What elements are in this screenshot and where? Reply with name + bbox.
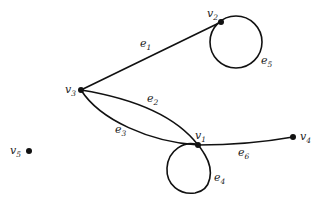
vertex-v2: [218, 19, 224, 25]
label-e4: e4: [214, 171, 226, 186]
vertex-v4: [290, 134, 296, 140]
vertex-v5: [26, 148, 32, 154]
label-e6: e6: [238, 146, 250, 161]
label-v5: v5: [10, 144, 21, 159]
loop-e5: [210, 16, 262, 68]
label-v1: v1: [195, 129, 206, 144]
label-v4: v4: [300, 130, 311, 145]
vertex-v3: [78, 87, 84, 93]
edge-e3: [81, 90, 198, 145]
label-e2: e2: [147, 92, 159, 107]
label-v3: v3: [65, 83, 76, 98]
loop-e4: [167, 144, 210, 194]
edge-e2: [81, 90, 198, 145]
vertex-v1: [195, 142, 201, 148]
edge-e1: [81, 22, 221, 90]
graph-diagram: v1 v2 v3 v4 v5 e1 e2 e3 e4 e5 e6: [0, 0, 316, 206]
label-e1: e1: [140, 37, 151, 52]
label-e5: e5: [261, 54, 273, 69]
edge-e6: [198, 137, 293, 145]
label-v2: v2: [207, 7, 218, 22]
